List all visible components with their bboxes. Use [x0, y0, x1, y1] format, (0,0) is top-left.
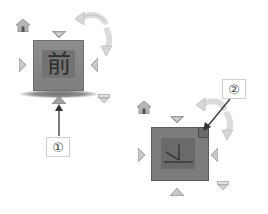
- arrow-left-icon[interactable]: [90, 58, 98, 72]
- arrow-up-icon[interactable]: [170, 188, 184, 196]
- arrow-right-icon[interactable]: [138, 148, 146, 162]
- callout-box-2: ②: [222, 79, 246, 99]
- home-icon[interactable]: [16, 19, 30, 32]
- cube-face-label: 前: [42, 50, 75, 78]
- home-icon[interactable]: [137, 101, 151, 114]
- viewcube[interactable]: [151, 127, 209, 181]
- callout-pointer-1: [54, 104, 64, 136]
- arrow-right-icon[interactable]: [19, 58, 27, 72]
- arrow-up-icon[interactable]: [52, 96, 66, 104]
- callout-box-1: ①: [46, 137, 70, 157]
- callout-pointer-2: [202, 98, 232, 132]
- dropdown-menu-icon[interactable]: [98, 94, 110, 104]
- viewcube-widget-1: 前 ①: [0, 0, 134, 140]
- arrow-down-icon[interactable]: [170, 116, 184, 124]
- callout-number: ②: [228, 83, 240, 96]
- arrow-down-icon[interactable]: [52, 31, 66, 39]
- callout-number: ①: [52, 141, 64, 154]
- viewcube-widget-2: ②: [130, 70, 268, 214]
- dropdown-menu-icon[interactable]: [217, 181, 229, 191]
- cube-axis-face[interactable]: [161, 138, 195, 169]
- cube-front-face[interactable]: 前: [42, 50, 75, 78]
- axis-tripod-icon: [161, 138, 195, 169]
- viewcube[interactable]: 前: [33, 40, 84, 91]
- arrow-left-icon[interactable]: [210, 148, 218, 162]
